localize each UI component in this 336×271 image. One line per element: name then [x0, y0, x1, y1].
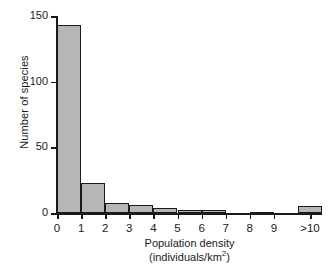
bar-bin-8: [250, 212, 274, 214]
x-tick-5: [178, 214, 180, 219]
x-tick-1: [81, 214, 83, 219]
plot-area: 0 50 100 150 0 1 2 3 4 5: [57, 16, 322, 213]
y-tick-label-150: 150: [30, 9, 48, 22]
x-axis-title-units-prefix: (individuals/km: [149, 251, 222, 263]
x-tick-label-2: 2: [102, 221, 108, 235]
x-tick-label-1: 1: [78, 221, 84, 235]
y-axis-title: Number of species: [18, 22, 30, 182]
x-tick-8: [250, 214, 252, 219]
bar-bin-5: [178, 210, 202, 213]
bar-bin-1: [81, 183, 105, 213]
x-tick-label-8: 8: [247, 221, 253, 235]
x-tick-label-10: >10: [300, 221, 320, 235]
x-tick-4: [153, 214, 155, 219]
bar-bin-3: [129, 205, 153, 213]
bar-bin-10: [298, 206, 322, 213]
x-tick-9: [274, 214, 276, 219]
y-tick-label-100: 100: [30, 75, 48, 88]
x-tick-label-3: 3: [126, 221, 132, 235]
x-tick-label-9: 9: [271, 221, 277, 235]
x-tick-0: [57, 214, 59, 219]
x-tick-7: [226, 214, 228, 219]
x-tick-label-0: 0: [54, 221, 60, 235]
x-tick-label-7: 7: [222, 221, 228, 235]
bar-bin-2: [105, 203, 129, 214]
x-tick-3: [129, 214, 131, 219]
bar-bin-9: [274, 213, 298, 215]
x-tick-2: [105, 214, 107, 219]
x-tick-label-6: 6: [198, 221, 204, 235]
y-tick-label-0: 0: [42, 206, 48, 219]
x-tick-10: [310, 214, 312, 219]
x-axis-title-line2: (individuals/km2): [57, 250, 322, 264]
x-tick-6: [202, 214, 204, 219]
x-tick-label-5: 5: [174, 221, 180, 235]
y-tick-150: 150: [51, 16, 57, 18]
bar-bin-6: [202, 210, 226, 213]
bar-bin-0: [57, 25, 81, 213]
x-axis-title: Population density (individuals/km2): [57, 236, 322, 264]
population-density-histogram: Number of species 0 50 100 150 0: [0, 0, 336, 271]
x-axis-title-units-suffix: ): [226, 251, 230, 263]
y-tick-label-50: 50: [36, 140, 48, 153]
bar-bin-7: [226, 213, 250, 215]
bar-bin-4: [153, 208, 177, 213]
x-tick-label-4: 4: [150, 221, 156, 235]
x-axis-title-line1: Population density: [145, 237, 235, 249]
